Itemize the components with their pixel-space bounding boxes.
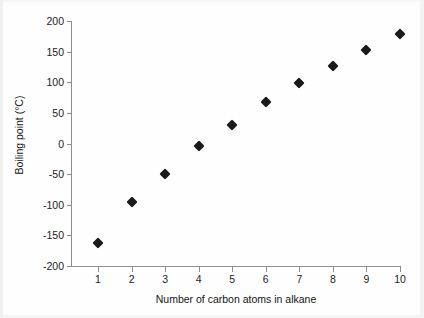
x-tick-mark <box>132 267 133 272</box>
x-tick-mark <box>165 267 166 272</box>
y-tick-label: 50 <box>52 108 64 118</box>
y-tick-label: -200 <box>43 261 64 271</box>
data-point <box>260 97 271 108</box>
y-tick-label: 150 <box>46 47 64 57</box>
x-tick-label: 4 <box>184 274 214 285</box>
x-tick-mark <box>366 267 367 272</box>
x-tick-mark <box>266 267 267 272</box>
y-axis-tick-labels: 200150100500-50-100-150-200 <box>0 0 64 290</box>
x-tick-label: 6 <box>251 274 281 285</box>
y-tick-label: 0 <box>58 139 64 149</box>
y-tick-label: -50 <box>49 169 64 179</box>
x-tick-label: 1 <box>83 274 113 285</box>
scan-edge-right <box>420 0 424 318</box>
data-point <box>92 237 103 248</box>
x-tick-label: 8 <box>318 274 348 285</box>
x-tick-label: 9 <box>351 274 381 285</box>
x-tick-mark <box>199 267 200 272</box>
x-tick-label: 10 <box>385 274 415 285</box>
x-tick-mark <box>98 267 99 272</box>
y-tick-label: -100 <box>43 200 64 210</box>
x-tick-label: 7 <box>284 274 314 285</box>
data-point <box>193 140 204 151</box>
data-point <box>126 196 137 207</box>
x-axis-line <box>71 266 401 267</box>
x-tick-mark <box>400 267 401 272</box>
data-point <box>159 168 170 179</box>
y-tick-label: 200 <box>46 16 64 26</box>
y-tick-label: -150 <box>43 230 64 240</box>
x-tick-mark <box>299 267 300 272</box>
chart-figure: 200150100500-50-100-150-200 12345678910 … <box>0 0 424 318</box>
x-tick-label: 2 <box>117 274 147 285</box>
data-point <box>361 44 372 55</box>
plot-area <box>72 21 400 266</box>
data-point <box>327 60 338 71</box>
x-tick-label: 5 <box>217 274 247 285</box>
data-point <box>227 119 238 130</box>
data-point <box>394 29 405 40</box>
x-tick-mark <box>232 267 233 272</box>
data-point <box>294 78 305 89</box>
y-tick-mark <box>67 266 72 267</box>
x-tick-mark <box>333 267 334 272</box>
x-tick-label: 3 <box>150 274 180 285</box>
x-axis-title: Number of carbon atoms in alkane <box>72 293 400 305</box>
y-axis-title: Boiling point (°C) <box>13 60 25 210</box>
y-tick-label: 100 <box>46 77 64 87</box>
